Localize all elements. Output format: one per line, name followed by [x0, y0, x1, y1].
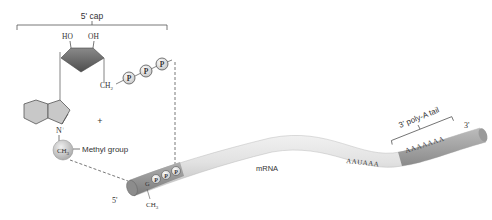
cap-g-label: G: [145, 180, 150, 187]
three-prime-label: 3': [464, 121, 470, 130]
svg-text:P: P: [154, 177, 158, 183]
ch2-label: CH2: [100, 81, 113, 91]
cap-methyl-label: CH3: [146, 201, 159, 210]
guanine-base: N+: [24, 100, 70, 141]
mrna-label: mRNA: [256, 164, 278, 173]
cap-bracket: 5' cap: [17, 11, 167, 30]
svg-text:P: P: [174, 169, 178, 175]
polya-tail-label: 3' poly-A tail: [397, 105, 440, 129]
oh-label: OH: [88, 32, 99, 41]
five-prime-label: 5': [112, 196, 118, 205]
svg-text:P: P: [160, 60, 165, 69]
cap-label: 5' cap: [81, 11, 104, 21]
methyl-group: CH3 Methyl group: [53, 140, 129, 160]
plus-sign: +: [97, 116, 102, 126]
svg-text:P: P: [127, 74, 132, 83]
ribose-sugar: HO OH CH2: [60, 32, 113, 100]
methyl-group-label: Methyl group: [82, 145, 129, 154]
mrna-diagram: 5' cap HO OH CH2 P P P N+ + CH3: [0, 0, 492, 220]
nitrogen-label: N+: [56, 126, 65, 135]
svg-text:P: P: [144, 67, 149, 76]
ho-label: HO: [62, 32, 73, 41]
methyl-connector: [70, 160, 128, 181]
triphosphate-chain: P P P: [116, 58, 172, 84]
svg-text:P: P: [164, 173, 168, 179]
